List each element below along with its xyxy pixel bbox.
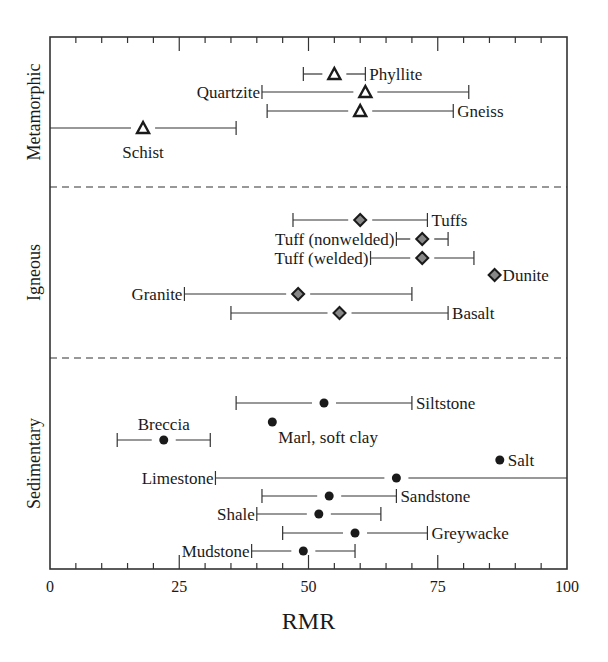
group-label-igneous: Igneous — [24, 244, 44, 301]
filled-circle-marker-icon — [392, 474, 401, 483]
rmr-range-chart: 0255075100RMRMetamorphicIgneousSedimenta… — [0, 0, 608, 662]
x-axis-title: RMR — [282, 608, 335, 634]
open-triangle-marker-icon — [359, 86, 371, 97]
x-tick-label: 100 — [555, 578, 579, 595]
filled-circle-marker-icon — [495, 456, 504, 465]
point-label-granite: Granite — [131, 285, 182, 304]
filled-circle-marker-icon — [320, 399, 329, 408]
point-label-greywacke: Greywacke — [431, 524, 508, 543]
group-label-metamorphic: Metamorphic — [24, 64, 44, 161]
point-label-mudstone: Mudstone — [182, 542, 250, 561]
filled-circle-marker-icon — [159, 436, 168, 445]
point-label-shale: Shale — [217, 505, 255, 524]
filled-circle-marker-icon — [325, 492, 334, 501]
open-triangle-marker-icon — [328, 68, 340, 79]
x-tick-label: 0 — [46, 578, 54, 595]
point-label-dunite: Dunite — [503, 266, 549, 285]
open-triangle-marker-icon — [137, 122, 149, 133]
gray-diamond-marker-icon — [334, 307, 346, 319]
point-label-gneiss: Gneiss — [457, 102, 503, 121]
filled-circle-marker-icon — [351, 529, 360, 538]
filled-circle-marker-icon — [299, 547, 308, 556]
gray-diamond-marker-icon — [416, 252, 428, 264]
point-label-siltstone: Siltstone — [416, 394, 476, 413]
point-label-phyllite: Phyllite — [369, 65, 422, 84]
filled-circle-marker-icon — [268, 418, 277, 427]
point-label-limestone: Limestone — [142, 469, 214, 488]
point-label-sandstone: Sandstone — [400, 487, 470, 506]
point-label-tuffs: Tuffs — [431, 211, 467, 230]
point-label-schist: Schist — [122, 143, 164, 162]
gray-diamond-marker-icon — [354, 214, 366, 226]
open-triangle-marker-icon — [354, 105, 366, 116]
point-label-basalt: Basalt — [452, 304, 495, 323]
point-label-salt: Salt — [508, 451, 535, 470]
point-label-breccia: Breccia — [138, 415, 190, 434]
x-tick-label: 50 — [301, 578, 317, 595]
chart-canvas: 0255075100RMRMetamorphicIgneousSedimenta… — [0, 0, 608, 662]
point-label-tuff-nonwelded: Tuff (nonwelded) — [275, 230, 394, 249]
gray-diamond-marker-icon — [292, 288, 304, 300]
group-label-sedimentary: Sedimentary — [24, 418, 44, 509]
filled-circle-marker-icon — [314, 510, 323, 519]
gray-diamond-marker-icon — [416, 233, 428, 245]
point-label-marl-soft-clay: Marl, soft clay — [278, 428, 378, 447]
point-label-quartzite: Quartzite — [197, 83, 260, 102]
x-tick-label: 25 — [171, 578, 187, 595]
x-tick-label: 75 — [430, 578, 446, 595]
point-label-tuff-welded: Tuff (welded) — [275, 249, 369, 268]
gray-diamond-marker-icon — [489, 269, 501, 281]
